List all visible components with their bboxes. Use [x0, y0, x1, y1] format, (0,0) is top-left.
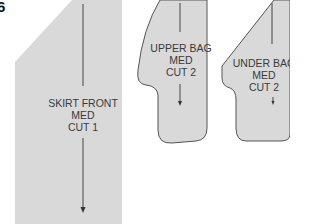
piece-name: UPPER BAG — [140, 42, 222, 54]
skirt-front-label: SKIRT FRONT MED CUT 1 — [23, 97, 143, 133]
piece-cut: CUT 2 — [140, 66, 222, 78]
piece-size: MED — [224, 69, 290, 81]
piece-cut: CUT 2 — [224, 81, 290, 93]
piece-name: UNDER BAG — [224, 57, 290, 69]
under-bag-label: UNDER BAG MED CUT 2 — [224, 57, 290, 93]
piece-size: MED — [140, 54, 222, 66]
piece-name: SKIRT FRONT — [23, 97, 143, 109]
piece-cut: CUT 1 — [23, 121, 143, 133]
piece-size: MED — [23, 109, 143, 121]
upper-bag-label: UPPER BAG MED CUT 2 — [140, 42, 222, 78]
